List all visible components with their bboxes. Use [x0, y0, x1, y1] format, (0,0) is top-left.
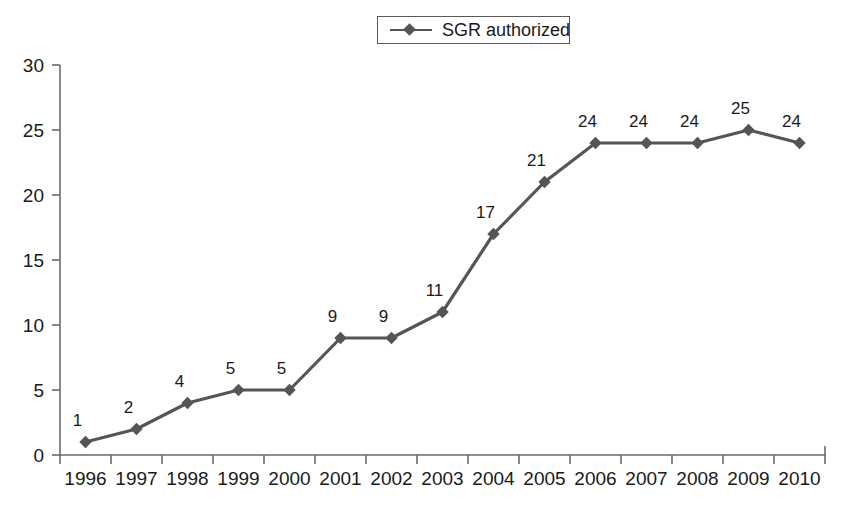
data-point-label: 9 [379, 307, 388, 326]
y-tick-label: 10 [23, 315, 44, 336]
y-tick-label: 30 [23, 55, 44, 76]
x-tick-label: 2001 [319, 468, 361, 489]
x-tick-label: 2009 [727, 468, 769, 489]
data-point-label: 5 [277, 359, 286, 378]
x-tick-label: 2008 [676, 468, 718, 489]
data-point-label: 24 [629, 112, 648, 131]
x-tick-label: 1997 [115, 468, 157, 489]
data-point-label: 24 [578, 112, 597, 131]
data-point-label: 17 [476, 203, 495, 222]
data-point-label: 1 [73, 411, 82, 430]
data-point-label: 24 [782, 112, 801, 131]
data-point-label: 2 [124, 398, 133, 417]
data-point-label: 11 [426, 281, 444, 300]
x-tick-label: 2006 [574, 468, 616, 489]
data-point-marker [79, 436, 91, 448]
data-labels: 12455991117212424242524 [73, 99, 801, 430]
data-point-label: 4 [175, 372, 184, 391]
x-tick-label: 1996 [64, 468, 106, 489]
plot-area: 051015202530 199619971998199920002001200… [0, 0, 845, 513]
y-tick-label: 15 [23, 250, 44, 271]
x-tick-label: 2010 [778, 468, 820, 489]
x-tick-label: 1999 [217, 468, 259, 489]
data-point-marker [181, 397, 193, 409]
data-point-label: 21 [527, 151, 546, 170]
y-tick-label: 25 [23, 120, 44, 141]
y-tick-label: 0 [33, 445, 44, 466]
x-tick-label: 2002 [370, 468, 412, 489]
data-point-label: 9 [328, 307, 337, 326]
x-tick-label: 2003 [421, 468, 463, 489]
x-tick-label: 2007 [625, 468, 667, 489]
data-point-label: 5 [226, 359, 235, 378]
x-tick-label: 2004 [472, 468, 515, 489]
y-tick-label: 20 [23, 185, 44, 206]
data-point-label: 24 [680, 112, 699, 131]
data-point-marker [742, 124, 754, 136]
x-tick-label: 2000 [268, 468, 310, 489]
x-tick-label: 2005 [523, 468, 565, 489]
data-point-marker [691, 137, 703, 149]
data-point-marker [232, 384, 244, 396]
data-point-marker [385, 332, 397, 344]
x-axis-line [60, 446, 825, 455]
x-axis: 1996199719981999200020012002200320042005… [60, 446, 825, 489]
data-point-marker [793, 137, 805, 149]
x-tick-label: 1998 [166, 468, 208, 489]
data-point-marker [130, 423, 142, 435]
data-point-label: 25 [731, 99, 750, 118]
y-axis: 051015202530 [23, 55, 60, 466]
y-tick-label: 5 [33, 380, 44, 401]
data-point-marker [640, 137, 652, 149]
chart-container: SGR authorized 051015202530 199619971998… [0, 0, 845, 513]
